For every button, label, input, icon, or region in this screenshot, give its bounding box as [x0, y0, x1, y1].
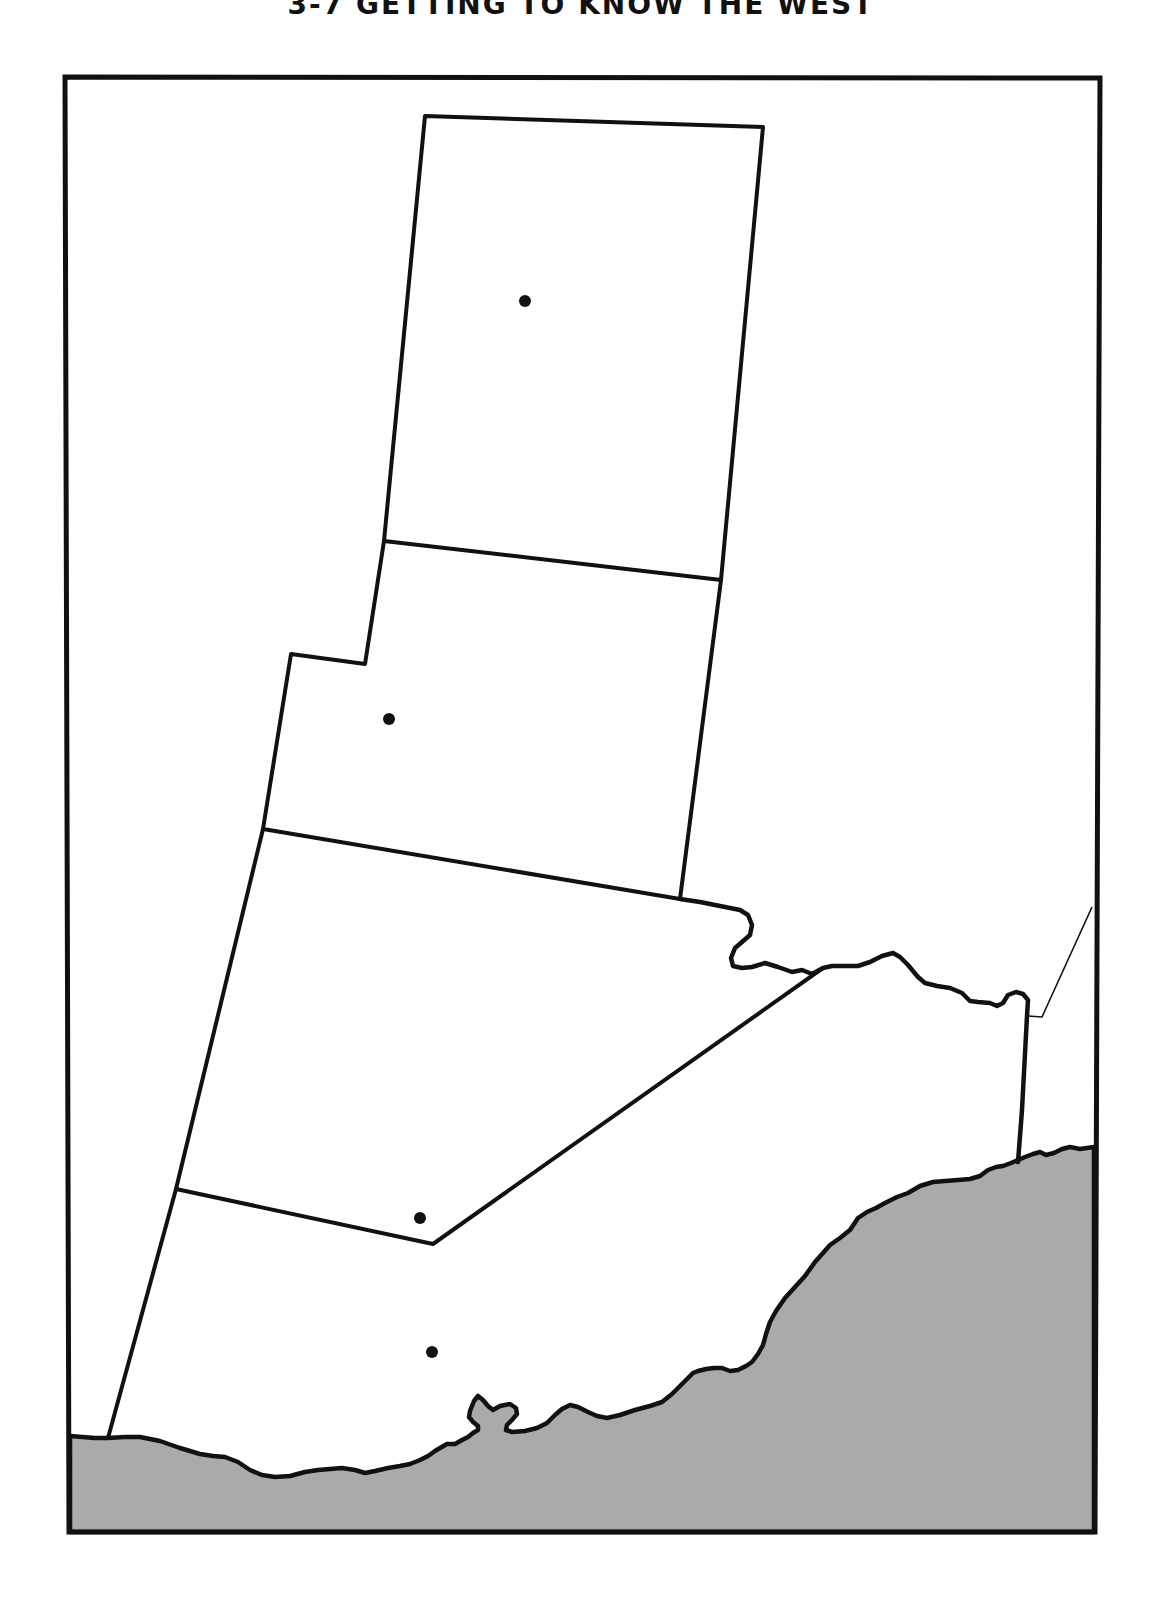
capital-dot-3 — [414, 1212, 426, 1224]
region-3-border — [176, 829, 823, 1244]
capital-dot-2 — [383, 713, 395, 725]
region-2-border — [263, 541, 721, 899]
capital-dot-1 — [519, 295, 531, 307]
water-body — [70, 1147, 1094, 1532]
region-1-border — [384, 116, 763, 580]
outline-map — [0, 0, 1162, 1610]
thin-boundary — [1028, 907, 1092, 1017]
region-5-border — [108, 1189, 176, 1438]
capital-dot-4 — [426, 1346, 438, 1358]
